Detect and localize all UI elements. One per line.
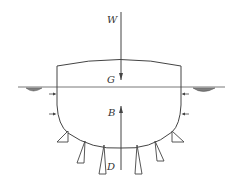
weight-arrowhead-icon — [119, 73, 123, 80]
label-w: W — [107, 14, 118, 25]
side-pressure-arrows — [49, 93, 189, 116]
buoyancy-arrowhead-icon — [119, 106, 123, 113]
label-b: B — [107, 107, 115, 118]
label-g: G — [107, 74, 115, 85]
force-diagram: W G B D — [0, 0, 238, 187]
water-hatch-left — [26, 88, 42, 91]
water-hatch-right — [193, 88, 215, 92]
hull-outline — [57, 60, 181, 149]
label-d: D — [106, 161, 115, 172]
